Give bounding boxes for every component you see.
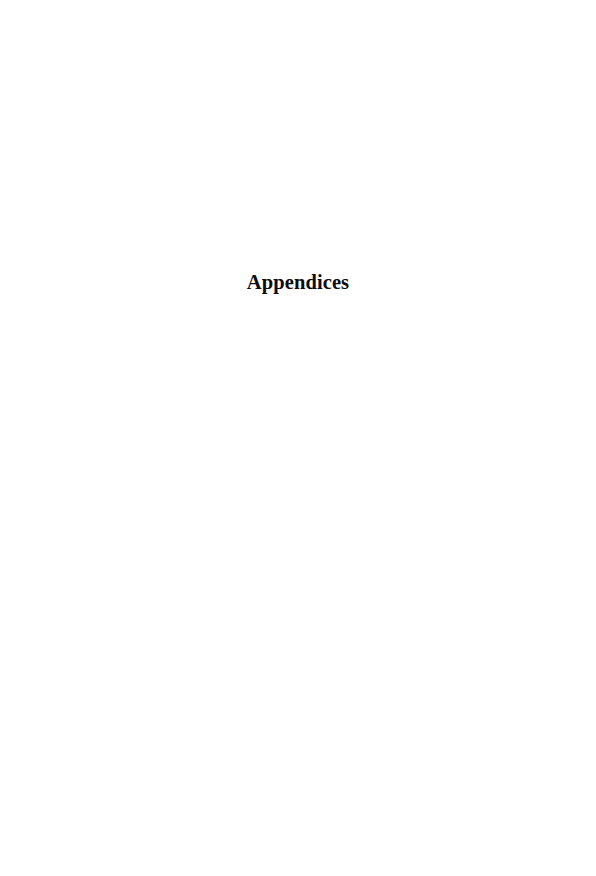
document-page: Appendices bbox=[0, 0, 596, 876]
page-footer bbox=[0, 816, 596, 876]
page-title: Appendices bbox=[247, 270, 349, 294]
page-header bbox=[0, 0, 596, 60]
page-body: Appendices bbox=[0, 60, 596, 816]
page-content-area bbox=[72, 292, 524, 812]
